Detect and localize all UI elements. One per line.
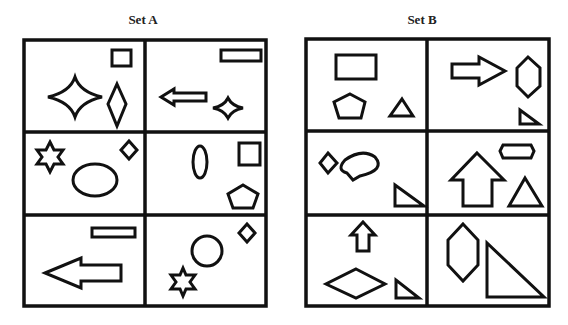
triangle-shape: [509, 178, 542, 206]
diamond-shape: [121, 141, 137, 159]
small-star-shape: [213, 98, 243, 118]
circle-shape: [192, 236, 222, 266]
wide-rectangle-shape: [92, 228, 135, 237]
square-shape: [112, 50, 131, 66]
set-b-cell-3: [320, 153, 424, 206]
set-a-cell-6: [171, 224, 255, 296]
right-triangle-shape: [395, 185, 424, 206]
wide-rectangle-shape: [221, 50, 261, 61]
diamond-shape: [239, 224, 255, 242]
diamond-shape: [320, 153, 337, 173]
speech-bubble-shape: [341, 153, 378, 180]
right-triangle-shape: [520, 110, 539, 124]
diamond-shape: [108, 84, 126, 126]
set-a-cell-4: [193, 143, 260, 208]
set-b-cell-6: [448, 224, 544, 297]
pentagon-shape: [228, 185, 258, 208]
ellipse-shape: [73, 164, 117, 196]
large-left-arrow-shape: [45, 258, 121, 288]
up-arrow-shape: [451, 153, 504, 206]
tall-hexagon-shape: [448, 224, 478, 281]
set-b-cell-2: [452, 57, 540, 124]
left-arrow-shape: [161, 89, 206, 105]
six-point-star-shape: [37, 142, 63, 172]
set-b-cell-1: [334, 55, 413, 118]
triangle-shape: [390, 99, 413, 116]
right-triangle-shape: [396, 280, 419, 298]
right-arrow-shape: [452, 57, 505, 85]
up-arrow-shape: [351, 222, 375, 251]
rectangle-shape: [336, 55, 376, 79]
square-shape: [239, 143, 260, 165]
six-point-star-shape: [171, 268, 195, 296]
set-b-cell-5: [326, 222, 419, 298]
large-right-triangle-shape: [487, 243, 544, 297]
set-b-cell-4: [451, 145, 542, 206]
set-a-cell-2: [161, 50, 261, 118]
set-a-cell-5: [45, 228, 135, 288]
four-point-star-shape: [48, 77, 102, 117]
vertical-ellipse-shape: [193, 146, 207, 178]
set-a-cell-1: [48, 50, 131, 126]
wide-diamond-shape: [326, 269, 385, 298]
hexagon-shape: [500, 145, 534, 158]
set-a-cell-3: [37, 141, 137, 196]
puzzle-diagram: [0, 0, 568, 325]
hexagon-shape: [517, 57, 540, 97]
pentagon-shape: [334, 94, 365, 118]
